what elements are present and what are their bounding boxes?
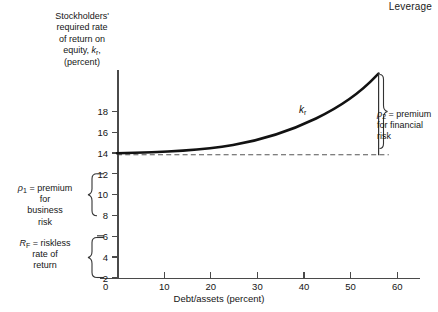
rho2-line-1: ρ2 = premium (377, 109, 437, 120)
chart-page: Leverage Stockholders' required rate of … (0, 0, 438, 312)
kr-curve (117, 74, 379, 154)
rho1-brace (88, 174, 97, 216)
rho1-line-2: for (4, 194, 86, 205)
riskless-rate-brace (88, 238, 97, 278)
riskless-rate-annotation: RF = riskless rate of return (4, 238, 86, 272)
riskless-line-2: rate of (4, 249, 86, 260)
rho2-line-2: for financial risk (377, 120, 437, 142)
riskless-line-3: return (4, 260, 86, 271)
rho2-financial-risk-annotation: ρ2 = premium for financial risk (377, 109, 437, 143)
rho1-business-risk-annotation: ρ1 = premium for business risk (4, 183, 86, 228)
rho1-line-3: business (4, 205, 86, 216)
kr-curve-label: kr (299, 104, 306, 115)
rho1-line-1: ρ1 = premium (4, 183, 86, 194)
rho1-line-4: risk (4, 217, 86, 228)
riskless-line-1: RF = riskless (4, 238, 86, 249)
